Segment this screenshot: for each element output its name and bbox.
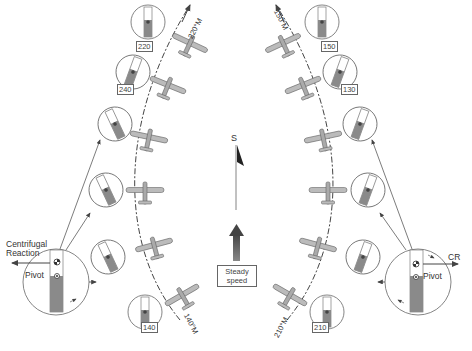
left-pivot-label: Pivot bbox=[25, 271, 44, 280]
right-pivot-label: Pivot bbox=[423, 272, 442, 281]
compass-dial bbox=[83, 167, 128, 212]
heading-label-s: S bbox=[231, 134, 237, 143]
aircraft-icon bbox=[145, 70, 188, 105]
speed-arrow-icon bbox=[229, 224, 244, 261]
compass-reading-220: 220 bbox=[136, 41, 153, 52]
compass-dial bbox=[338, 102, 382, 146]
aircraft-icon bbox=[262, 28, 306, 64]
compass-dial bbox=[341, 235, 385, 279]
compass-reading-210: 210 bbox=[312, 322, 329, 333]
aircraft-icon bbox=[303, 125, 345, 154]
right-flight-path bbox=[276, 5, 333, 320]
centrifugal-label-line2: Reaction bbox=[6, 249, 40, 258]
compass-dial bbox=[305, 5, 339, 39]
aircraft-icon bbox=[282, 70, 325, 105]
aircraft-icon bbox=[162, 279, 206, 317]
diagram-canvas bbox=[0, 0, 472, 351]
aircraft-icon bbox=[128, 125, 170, 154]
aircraft-icon bbox=[267, 279, 311, 317]
compass-reading-240: 240 bbox=[117, 84, 134, 95]
compass-reading-150: 150 bbox=[321, 41, 338, 52]
aircraft-icon bbox=[309, 182, 347, 204]
compass-dial bbox=[92, 101, 137, 146]
cr-label: CR bbox=[448, 253, 460, 262]
aircraft-icon bbox=[296, 232, 338, 263]
compass-reading-130: 130 bbox=[341, 84, 358, 95]
steady-speed-label: Steady speed bbox=[217, 265, 257, 287]
aircraft-icon bbox=[126, 182, 164, 204]
compass-dial bbox=[131, 5, 165, 39]
left-pivot-detail bbox=[12, 140, 100, 315]
right-pivot-detail bbox=[372, 140, 458, 315]
heading-indicator bbox=[236, 145, 244, 210]
compass-reading-140: 140 bbox=[141, 322, 158, 333]
compass-dial bbox=[346, 168, 390, 212]
compass-turning-diagram: S Steady speed Centrifugal Reaction Pivo… bbox=[0, 0, 472, 351]
compass-dial bbox=[85, 234, 130, 279]
